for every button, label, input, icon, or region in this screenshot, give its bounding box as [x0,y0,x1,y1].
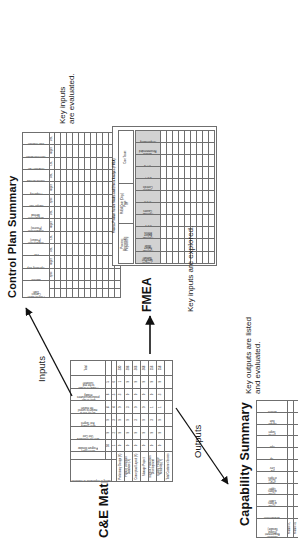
cap-col-header: On theTarget [257,424,288,436]
cap-col-header: % Outof SpecUpper [257,483,288,495]
cap-col-header: % Outof SpecLower [257,495,288,507]
cap-col-header: SampleSize [257,412,288,424]
capability-title: Capability Summary [238,402,252,526]
cap-cell [294,401,299,413]
cap-col-header: Target% Outof Spec [257,471,288,483]
cap-col-header: Measurement [257,507,288,519]
cap-cell [294,459,299,471]
cap-cell [294,483,299,495]
cap-cell [294,507,299,519]
cap-row: Feature #2 [294,401,299,538]
cap-cell [294,495,299,507]
cap-cell [294,448,299,460]
outputs-arrow-label: Outputs [192,425,203,458]
six-sigma-toolchain-poster: C&E Matrix Rating of Importance to Custo… [0,0,298,544]
cap-cell [294,471,299,483]
cap-col-header: Cp [257,448,288,460]
cap-cell [294,424,299,436]
cap-col-header: CustomerRequirement(OutputVariable) [257,519,288,538]
capability-table: CustomerRequirement(OutputVariable)Measu… [256,400,298,538]
cap-cell [294,436,299,448]
diagram-canvas: C&E Matrix Rating of Importance to Custo… [0,0,298,544]
cap-cell [294,412,299,424]
capability-caption: Key outputs are listed and evaluated. [244,317,263,394]
cap-col-header: Actions [257,401,288,413]
cap-row-label: Feature #2 [294,519,299,538]
cap-col-header: StdDev [257,459,288,471]
cap-col-header: Cpk [257,436,288,448]
outputs-arrow [0,0,298,544]
